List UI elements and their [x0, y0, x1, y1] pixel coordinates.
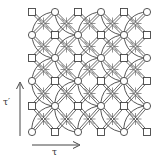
circle-node: [97, 54, 104, 61]
square-node: [52, 78, 59, 85]
square-node: [75, 103, 82, 110]
circle-node: [97, 8, 104, 15]
square-node: [52, 32, 59, 39]
square-node: [121, 9, 128, 16]
square-node: [75, 55, 82, 62]
square-node: [144, 32, 151, 39]
square-node: [29, 55, 36, 62]
square-node: [144, 78, 151, 85]
circle-node: [28, 77, 35, 84]
circle-node: [74, 128, 81, 135]
square-node: [52, 129, 59, 136]
lattice-diagram: [0, 0, 156, 161]
circle-node: [28, 128, 35, 135]
circle-node: [74, 31, 81, 38]
square-node: [29, 103, 36, 110]
circle-node: [120, 77, 127, 84]
circle-node: [51, 54, 58, 61]
circle-node: [74, 77, 81, 84]
square-node: [98, 129, 105, 136]
square-node: [75, 9, 82, 16]
square-node: [98, 78, 105, 85]
square-node: [144, 129, 151, 136]
circle-node: [143, 102, 150, 109]
circle-node: [143, 8, 150, 15]
circle-node: [120, 31, 127, 38]
square-node: [98, 32, 105, 39]
circle-node: [120, 128, 127, 135]
circle-node: [143, 54, 150, 61]
tau-label: τ: [52, 147, 57, 157]
square-node: [121, 55, 128, 62]
circle-node: [28, 31, 35, 38]
tau-prime-label: τ′: [3, 97, 10, 107]
square-node: [29, 9, 36, 16]
circle-node: [97, 102, 104, 109]
square-node: [121, 103, 128, 110]
circle-node: [51, 102, 58, 109]
circle-node: [51, 8, 58, 15]
